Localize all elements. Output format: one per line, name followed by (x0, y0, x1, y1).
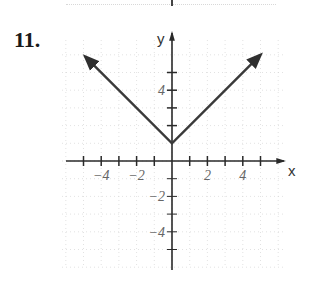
x-tick-label: −4 (93, 168, 109, 183)
y-axis-label: y (157, 30, 165, 47)
x-tick-label: 4 (239, 168, 246, 183)
x-tick-label: 2 (204, 168, 211, 183)
x-axis-label: x (288, 162, 296, 179)
x-tick-label: −2 (128, 168, 144, 183)
y-tick-label: 4 (158, 83, 165, 98)
coordinate-plot: x y −4−2244−2−4 (0, 0, 316, 286)
y-tick-label: −2 (149, 189, 165, 204)
y-tick-label: −4 (149, 225, 165, 240)
function-graph (85, 55, 260, 144)
